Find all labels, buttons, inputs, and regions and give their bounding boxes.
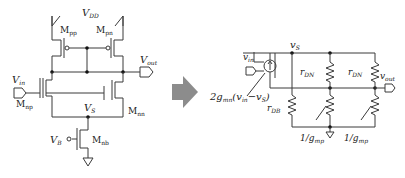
mpp-label: Mpp xyxy=(60,25,77,37)
vout-port xyxy=(140,67,153,77)
ground-icon xyxy=(83,158,93,166)
mnn-label: Mnn xyxy=(128,106,145,117)
mnb-label: Mnb xyxy=(92,135,109,146)
mpn-label: Mpn xyxy=(96,25,113,37)
vdd-rail-right xyxy=(115,16,123,26)
vs-label: VS xyxy=(84,102,95,114)
vs-node-label: vS xyxy=(290,39,300,51)
diagram-canvas: VDD Mpp Mpn Vout Mnp Vin xyxy=(0,0,405,178)
rdn-resistor-1 xyxy=(326,53,334,88)
right-small-signal: vS vin 2gmn(vin−vS) rDN rDN vout rDB xyxy=(209,39,396,145)
vin-port xyxy=(14,88,26,98)
mnp-transistor xyxy=(46,72,52,104)
vout-label: Vout xyxy=(140,54,158,66)
vin-small-port xyxy=(246,67,256,75)
vb-label: VB xyxy=(50,134,62,146)
vin-small-label: vin xyxy=(243,52,254,63)
rdb-resistor xyxy=(288,53,296,127)
gmp-resistor-2 xyxy=(371,88,379,127)
rdn-label-2: rDN xyxy=(348,67,363,78)
mpn-transistor xyxy=(114,16,123,72)
current-source-label: 2gmn(vin−vS) xyxy=(209,91,270,103)
rdb-label: rDB xyxy=(267,103,281,114)
rdn-label-1: rDN xyxy=(300,67,315,78)
mnb-transistor xyxy=(80,117,88,158)
pmos-bubble-icon xyxy=(65,46,69,50)
gmp-label-1: 1/gmp xyxy=(300,133,324,145)
vout-small-port xyxy=(385,84,395,92)
pmos-bubble-icon xyxy=(106,46,110,50)
rdn-resistor-2 xyxy=(371,62,379,88)
mnp-label: Mnp xyxy=(16,99,33,111)
mnn-transistor xyxy=(115,72,123,117)
gmp-resistor-1 xyxy=(326,88,334,127)
vin-label: Vin xyxy=(12,74,25,86)
vb-terminal-icon xyxy=(67,137,71,141)
ground-icon xyxy=(326,132,334,138)
transform-arrow-icon xyxy=(172,76,198,108)
vout-small-label: vout xyxy=(380,71,396,82)
vdd-label: VDD xyxy=(82,7,99,19)
left-schematic: VDD Mpp Mpn Vout Mnp Vin xyxy=(12,7,158,166)
gmp-label-2: 1/gmp xyxy=(344,133,368,145)
vdd-rail-left xyxy=(52,16,60,26)
